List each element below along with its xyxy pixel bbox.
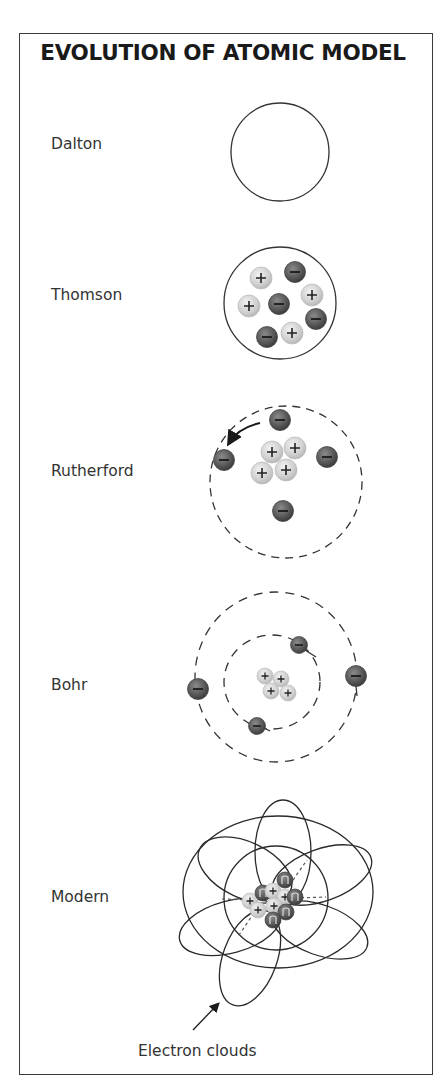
- modern-nucleus: [242, 872, 303, 928]
- atomic-models-diagram: [0, 0, 446, 1091]
- thomson-model: [224, 247, 336, 359]
- electron-clouds-arrow: [193, 1004, 218, 1030]
- dalton-model: [231, 103, 329, 201]
- electron-clouds-label: Electron clouds: [138, 1042, 257, 1060]
- bohr-model: [188, 592, 367, 762]
- rutherford-model: [210, 406, 362, 558]
